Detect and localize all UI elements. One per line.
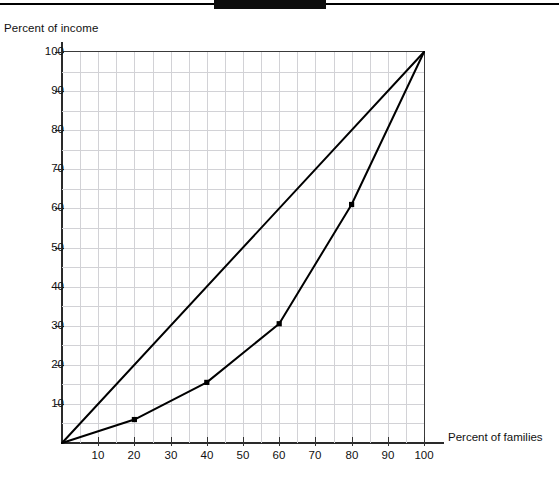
x-tick-label: 70: [295, 450, 335, 462]
x-tick-mark: [171, 437, 172, 446]
y-tick-label: 90: [18, 85, 64, 97]
x-axis-title: Percent of families: [448, 431, 543, 443]
header-black-block: [214, 0, 326, 9]
y-tick-label: 40: [18, 281, 64, 293]
x-tick-mark: [279, 437, 280, 446]
x-tick-mark: [243, 437, 244, 446]
x-tick-mark: [134, 437, 135, 446]
data-point-marker: [132, 417, 137, 422]
plot-area: [62, 52, 424, 443]
x-tick-label: 20: [114, 450, 154, 462]
x-tick-mark: [98, 437, 99, 446]
y-tick-label: 100: [18, 46, 64, 58]
x-tick-label: 100: [404, 450, 444, 462]
data-point-marker: [349, 202, 354, 207]
y-tick-label: 20: [18, 359, 64, 371]
y-tick-label: 50: [18, 242, 64, 254]
x-tick-label: 50: [223, 450, 263, 462]
x-tick-mark: [207, 437, 208, 446]
x-tick-mark: [388, 437, 389, 446]
x-tick-label: 40: [187, 450, 227, 462]
series-layer: [62, 52, 424, 443]
y-tick-label: 30: [18, 320, 64, 332]
x-tick-label: 30: [151, 450, 191, 462]
x-tick-label: 90: [368, 450, 408, 462]
data-point-marker: [204, 380, 209, 385]
y-tick-label: 10: [18, 398, 64, 410]
y-tick-label: 70: [18, 163, 64, 175]
x-tick-label: 10: [78, 450, 118, 462]
data-point-marker: [277, 321, 282, 326]
y-tick-label: 80: [18, 124, 64, 136]
x-tick-mark: [424, 437, 425, 446]
series-line: [62, 52, 424, 443]
y-tick-label: 60: [18, 202, 64, 214]
x-tick-label: 60: [259, 450, 299, 462]
plot-frame-right: [424, 52, 425, 443]
x-tick-mark: [352, 437, 353, 446]
x-tick-label: 80: [332, 450, 372, 462]
y-axis-ticks: 102030405060708090100: [0, 0, 64, 488]
x-tick-mark: [315, 437, 316, 446]
